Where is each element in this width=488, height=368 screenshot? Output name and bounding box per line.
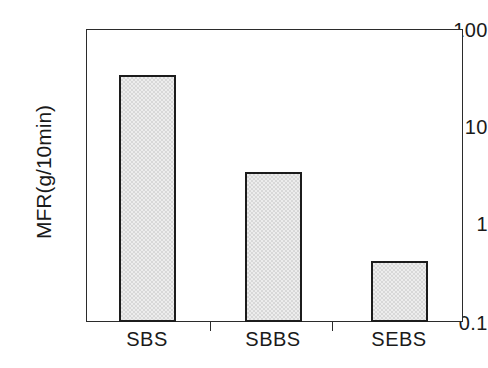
bar-sebs — [371, 261, 428, 322]
x-tick-label-sbbs: SBBS — [213, 328, 333, 351]
bar-sbbs — [245, 172, 302, 322]
bar-sbs — [119, 75, 176, 322]
x-tick-label-sebs: SEBS — [339, 328, 459, 351]
y-axis-title: MFR(g/10min) — [32, 52, 56, 292]
chart-figure: MFR(g/10min) 100 10 1 0.1 SBS SBBS SEBS — [0, 0, 488, 368]
x-tick-label-sbs: SBS — [87, 328, 207, 351]
x-tick-mark-1 — [210, 322, 211, 331]
